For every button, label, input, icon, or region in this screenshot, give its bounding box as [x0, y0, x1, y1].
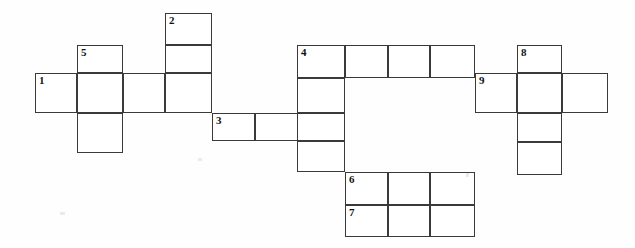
- crossword-cell[interactable]: [165, 73, 212, 113]
- crossword-cell[interactable]: [562, 73, 608, 113]
- crossword-grid[interactable]: 123456789: [0, 0, 635, 248]
- crossword-cell[interactable]: [345, 45, 388, 78]
- clue-number-5: 5: [81, 46, 87, 59]
- crossword-cell[interactable]: [255, 113, 300, 141]
- scan-speck: [60, 212, 65, 215]
- crossword-cell[interactable]: [517, 73, 562, 113]
- crossword-cell[interactable]: [297, 141, 345, 172]
- scan-speck: [466, 173, 469, 177]
- crossword-cell[interactable]: [165, 45, 212, 73]
- crossword-cell[interactable]: [430, 45, 475, 78]
- crossword-cell[interactable]: [388, 45, 430, 78]
- clue-number-6: 6: [349, 173, 355, 186]
- clue-number-2: 2: [169, 14, 175, 27]
- crossword-cell[interactable]: [297, 113, 345, 141]
- crossword-cell[interactable]: [123, 73, 165, 113]
- clue-number-9: 9: [479, 74, 485, 87]
- clue-number-1: 1: [39, 74, 45, 87]
- clue-number-8: 8: [521, 46, 527, 59]
- crossword-cell[interactable]: [297, 78, 345, 113]
- clue-number-4: 4: [301, 46, 307, 59]
- crossword-cell[interactable]: [388, 205, 430, 237]
- scan-speck: [198, 158, 202, 161]
- clue-number-7: 7: [349, 206, 355, 219]
- crossword-cell[interactable]: [517, 113, 562, 142]
- crossword-cell[interactable]: [77, 113, 123, 153]
- crossword-cell[interactable]: [517, 142, 562, 175]
- crossword-cell[interactable]: [388, 172, 430, 205]
- crossword-cell[interactable]: [77, 73, 123, 113]
- crossword-cell[interactable]: [430, 205, 475, 237]
- clue-number-3: 3: [216, 114, 222, 127]
- crossword-puzzle: 123456789: [0, 0, 635, 248]
